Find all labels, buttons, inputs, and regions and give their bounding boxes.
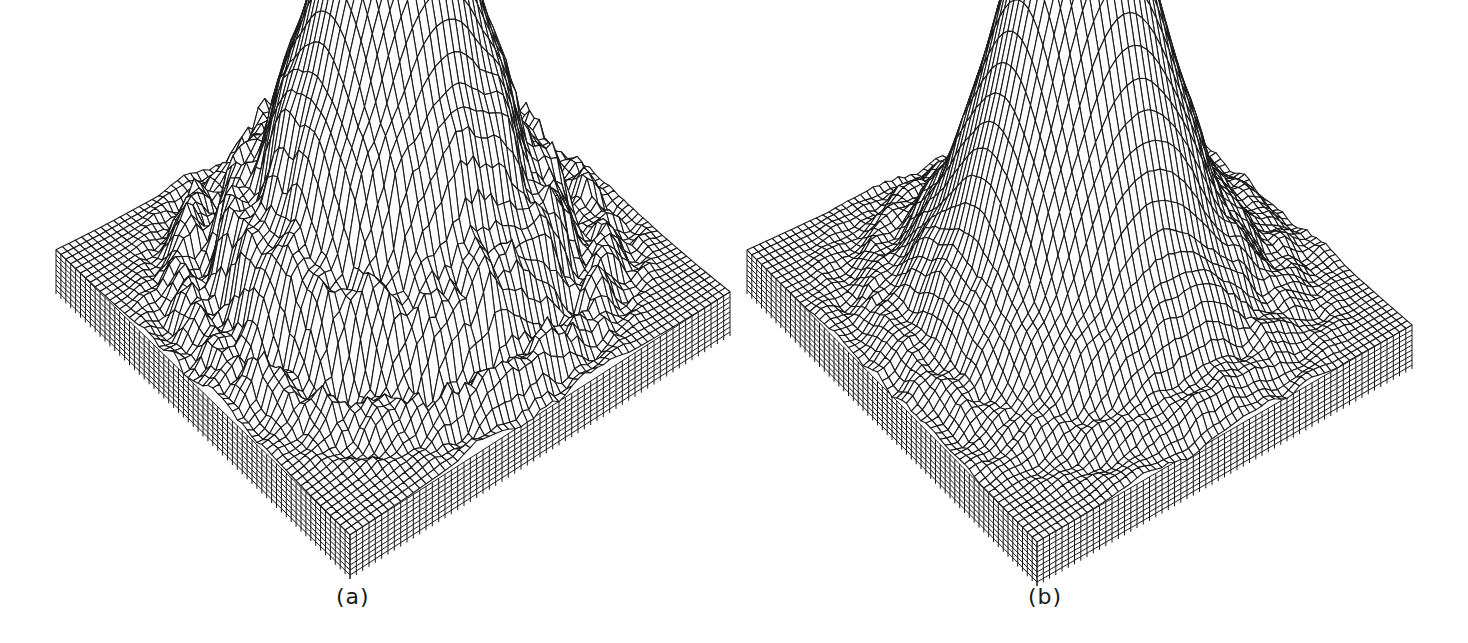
surface-plot-b — [734, 0, 1468, 643]
panel-a — [0, 0, 734, 643]
surface-plot-a — [0, 0, 734, 643]
figure: (a) (b) — [0, 0, 1468, 643]
surface-mesh — [56, 0, 730, 535]
panel-b — [734, 0, 1468, 643]
surface-mesh — [747, 0, 1412, 542]
panel-label-b: (b) — [1028, 584, 1062, 609]
panel-label-a: (a) — [336, 584, 370, 609]
